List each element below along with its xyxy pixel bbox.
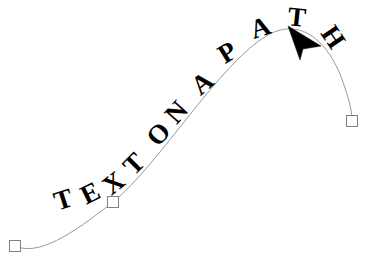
path-letter-7: P (212, 35, 242, 69)
start-node[interactable] (10, 241, 21, 252)
end-node[interactable] (347, 116, 358, 127)
path-letter-6: A (185, 65, 220, 101)
path-letter-10: H (315, 20, 352, 54)
vector-artwork: TEXTONAPATH (0, 0, 371, 264)
path-letter-2: X (97, 165, 131, 201)
path-letter-3: T (117, 147, 151, 181)
path-letter-0: T (50, 182, 76, 216)
path-letter-8: A (246, 10, 274, 45)
text-on-path[interactable]: TEXTONAPATH (50, 1, 352, 216)
middle-node[interactable] (108, 197, 119, 208)
editor-canvas[interactable]: TEXTONAPATH TEXT ON A PATH (0, 0, 371, 264)
bezier-path[interactable] (15, 29, 352, 249)
path-letter-5: N (159, 94, 195, 129)
